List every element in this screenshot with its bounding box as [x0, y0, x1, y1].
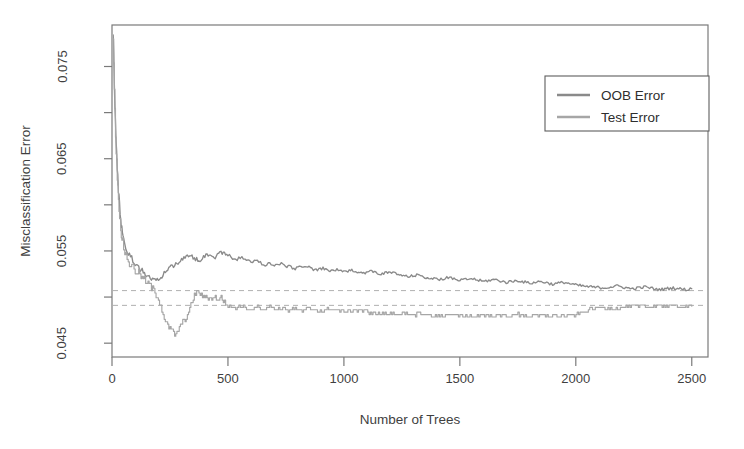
x-tick-label: 1000: [329, 371, 358, 386]
y-tick-label: 0.055: [55, 235, 70, 268]
x-tick-label: 2500: [677, 371, 706, 386]
chart-figure: 0.0450.0550.0650.075 0500100015002000250…: [0, 0, 744, 449]
y-tick-label: 0.075: [55, 50, 70, 83]
chart-legend[interactable]: OOB Error Test Error: [545, 76, 709, 131]
misclassification-error-line-chart: 0.0450.0550.0650.075 0500100015002000250…: [0, 0, 744, 449]
x-tick-label: 0: [108, 371, 115, 386]
y-tick-label: 0.065: [55, 142, 70, 175]
legend-label-test-error: Test Error: [601, 110, 660, 125]
legend-label-oob-error: OOB Error: [601, 88, 665, 103]
x-tick-label: 500: [217, 371, 239, 386]
y-tick-label: 0.045: [55, 327, 70, 360]
x-axis-title: Number of Trees: [360, 412, 461, 427]
x-tick-label: 2000: [561, 371, 590, 386]
x-tick-label: 1500: [445, 371, 474, 386]
y-axis-title: Misclassification Error: [18, 125, 33, 257]
